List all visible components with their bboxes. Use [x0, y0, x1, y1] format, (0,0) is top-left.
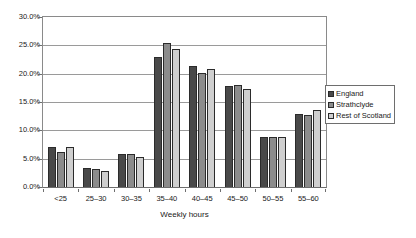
x-tick: <25: [43, 189, 78, 207]
x-tick-mark: [43, 189, 44, 192]
x-tick: 40–45: [185, 189, 220, 207]
bar: [92, 169, 100, 187]
y-tick-label: 15.0%: [4, 98, 40, 106]
bar: [57, 152, 65, 187]
bar-group: [114, 17, 149, 187]
y-tick-label: 0.0%: [4, 183, 40, 191]
y-tick-label: 20.0%: [4, 70, 40, 78]
x-tick-label: 55–60: [291, 194, 326, 203]
bar: [154, 57, 162, 187]
bar: [278, 137, 286, 187]
bar-group: [291, 17, 326, 187]
legend-label: Strathclyde: [336, 100, 374, 109]
x-tick: 55–60: [291, 189, 326, 207]
bar-group: [43, 17, 78, 187]
bar: [163, 43, 171, 188]
x-tick: 50–55: [255, 189, 290, 207]
bar: [225, 86, 233, 187]
x-tick-mark: [149, 189, 150, 192]
x-tick-mark: [220, 189, 221, 192]
bar: [234, 85, 242, 187]
bar: [127, 154, 135, 187]
bar-group: [220, 17, 255, 187]
bar: [207, 69, 215, 187]
x-axis-title: Weekly hours: [43, 210, 326, 219]
x-tick-label: <25: [43, 194, 78, 203]
bars-layer: [43, 17, 326, 187]
legend-swatch-icon: [328, 113, 334, 119]
x-tick-label: 25–30: [78, 194, 113, 203]
x-tick-mark: [185, 189, 186, 192]
legend-swatch-icon: [328, 91, 334, 97]
legend-swatch-icon: [328, 102, 334, 108]
x-tick: 45–50: [220, 189, 255, 207]
legend-label: England: [336, 89, 364, 98]
x-tick: 30–35: [114, 189, 149, 207]
legend-item[interactable]: England: [328, 88, 391, 99]
bar: [304, 115, 312, 187]
x-axis: <2525–3030–3535–4040–4545–5050–5555–60: [43, 189, 326, 207]
bar: [136, 157, 144, 187]
x-tick-label: 30–35: [114, 194, 149, 203]
x-tick-mark: [114, 189, 115, 192]
bar: [189, 66, 197, 187]
bar: [101, 171, 109, 187]
y-tick-label: 5.0%: [4, 155, 40, 163]
bar-group: [255, 17, 290, 187]
y-axis: 0.0%5.0%10.0%15.0%20.0%25.0%30.0%: [0, 16, 40, 188]
x-tick-label: 40–45: [185, 194, 220, 203]
y-tick-label: 10.0%: [4, 126, 40, 134]
bar: [243, 89, 251, 187]
x-tick-label: 35–40: [149, 194, 184, 203]
x-tick-mark: [325, 189, 326, 192]
bar: [66, 147, 74, 187]
x-tick-mark: [78, 189, 79, 192]
bar-group: [185, 17, 220, 187]
y-tick-label: 30.0%: [4, 13, 40, 21]
legend-label: Rest of Scotland: [336, 111, 391, 120]
bar-group: [149, 17, 184, 187]
bar: [198, 73, 206, 187]
x-tick-label: 45–50: [220, 194, 255, 203]
x-tick: 35–40: [149, 189, 184, 207]
x-tick: 25–30: [78, 189, 113, 207]
bar: [269, 137, 277, 187]
bar-group: [78, 17, 113, 187]
chart-legend: EnglandStrathclydeRest of Scotland: [325, 85, 395, 124]
legend-item[interactable]: Rest of Scotland: [328, 110, 391, 121]
bar-chart: 0.0%5.0%10.0%15.0%20.0%25.0%30.0% <2525–…: [0, 0, 416, 238]
bar: [172, 49, 180, 187]
y-tick-label: 25.0%: [4, 41, 40, 49]
bar: [83, 168, 91, 187]
legend-item[interactable]: Strathclyde: [328, 99, 391, 110]
bar: [260, 137, 268, 187]
x-tick-mark: [291, 189, 292, 192]
bar: [118, 154, 126, 187]
bar: [313, 110, 321, 187]
bar: [48, 147, 56, 187]
x-tick-label: 50–55: [255, 194, 290, 203]
x-tick-mark: [255, 189, 256, 192]
bar: [295, 114, 303, 187]
